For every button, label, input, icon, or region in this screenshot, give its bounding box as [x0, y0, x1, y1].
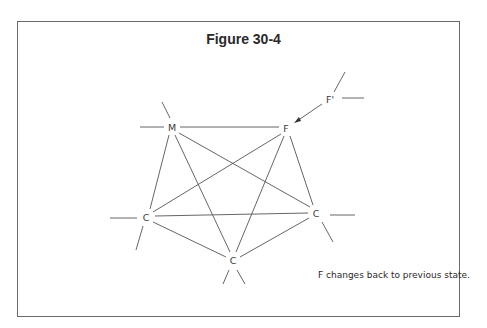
- edge-f-cr: [290, 136, 313, 205]
- stub-cl: [136, 226, 143, 250]
- node-f: F: [283, 123, 288, 134]
- arrow-fprime-to-f: [297, 104, 322, 121]
- node-c-right: C: [313, 208, 320, 219]
- edge-f-cb: [236, 136, 284, 252]
- edge-cl-cb: [153, 222, 226, 257]
- node-f-prime: F': [326, 94, 334, 105]
- stub-cr: [322, 222, 333, 242]
- node-m: M: [168, 122, 176, 133]
- edge-m-cl: [150, 135, 169, 209]
- node-c-bottom: C: [230, 255, 237, 266]
- figure-caption: F changes back to previous state.: [318, 270, 470, 280]
- edge-cl-cr: [155, 213, 308, 216]
- stub-fprime: [334, 72, 345, 92]
- stub-m: [162, 102, 170, 118]
- edge-f-cl: [153, 134, 281, 212]
- node-c-left: C: [143, 212, 150, 223]
- edge-cr-cb: [240, 218, 309, 257]
- stub-cb: [237, 270, 245, 284]
- arrowhead-icon: [294, 117, 301, 123]
- stub-cb: [223, 270, 229, 284]
- edge-m-cr: [179, 133, 310, 207]
